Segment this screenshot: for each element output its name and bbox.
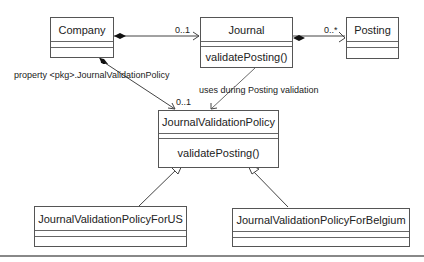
bottom-divider	[0, 255, 424, 257]
operations-compartment	[35, 237, 186, 246]
class-company[interactable]: Company	[50, 17, 114, 58]
open-arrow-icon	[339, 32, 345, 42]
multiplicity-journal-posting: 0..*	[324, 25, 338, 35]
class-name: Journal	[201, 18, 292, 42]
operation-validate-posting: validatePosting()	[201, 47, 292, 67]
us-jvp-generalization	[139, 163, 183, 206]
association-label-company-jvp: property <pkg>.JournalValidationPolicy	[14, 70, 169, 80]
class-name: Company	[51, 18, 113, 42]
class-name: Posting	[347, 18, 398, 42]
operations-compartment	[347, 48, 398, 58]
multiplicity-company-journal: 0..1	[175, 25, 190, 35]
class-posting[interactable]: Posting	[346, 17, 399, 59]
class-journal-validation-policy-for-belgium[interactable]: JournalValidationPolicyForBelgium	[232, 208, 410, 247]
class-journal-validation-policy-for-us[interactable]: JournalValidationPolicyForUS	[34, 206, 187, 247]
dependency-label-journal-jvp: uses during Posting validation	[199, 85, 319, 95]
class-journal-validation-policy[interactable]: JournalValidationPolicy validatePosting(…	[158, 110, 279, 168]
operation-validate-posting: validatePosting()	[159, 139, 278, 167]
class-journal[interactable]: Journal validatePosting()	[200, 17, 293, 68]
composition-diamond-icon	[114, 33, 126, 39]
class-name: JournalValidationPolicy	[159, 111, 278, 134]
class-name: JournalValidationPolicyForBelgium	[233, 209, 409, 232]
operations-compartment	[51, 48, 113, 57]
multiplicity-company-jvp: 0..1	[176, 97, 191, 107]
operations-compartment	[233, 238, 409, 246]
company-jvp-composition	[99, 57, 175, 109]
class-name: JournalValidationPolicyForUS	[35, 207, 186, 231]
belgium-jvp-generalization	[247, 163, 288, 207]
